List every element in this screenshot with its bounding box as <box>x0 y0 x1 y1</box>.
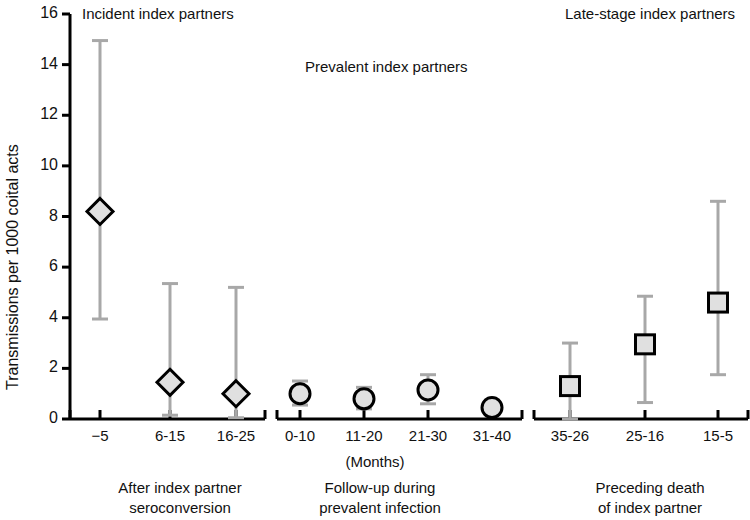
data-point-diamond <box>223 381 249 407</box>
group-caption-2: Follow-up during prevalent infection <box>295 478 465 518</box>
group-caption-3-line1: Preceding death <box>560 478 740 498</box>
x-category-label: 15-5 <box>673 427 750 444</box>
x-category-label: 31-40 <box>447 427 537 444</box>
group-caption-3: Preceding death of index partner <box>560 478 740 518</box>
chart-figure: Transmissions per 1000 coital acts Incid… <box>0 0 750 520</box>
data-point-circle <box>418 380 438 400</box>
group-caption-3-line2: of index partner <box>560 498 740 518</box>
group-caption-1: After index partner seroconversion <box>80 478 280 518</box>
data-point-circle <box>482 398 502 418</box>
group-caption-2-line1: Follow-up during <box>295 478 465 498</box>
y-tick-label: 2 <box>24 358 58 376</box>
y-tick-label: 8 <box>24 207 58 225</box>
data-point-square <box>709 293 728 312</box>
group-caption-1-line2: seroconversion <box>80 498 280 518</box>
data-point-square <box>636 335 655 354</box>
data-point-square <box>561 377 580 396</box>
data-point-diamond <box>87 198 113 224</box>
group-caption-2-line2: prevalent infection <box>295 498 465 518</box>
y-tick-label: 10 <box>24 156 58 174</box>
y-tick-label: 16 <box>24 4 58 22</box>
months-axis-label: (Months) <box>325 453 425 470</box>
group-caption-1-line1: After index partner <box>80 478 280 498</box>
y-tick-label: 4 <box>24 308 58 326</box>
data-point-circle <box>290 384 310 404</box>
y-tick-label: 14 <box>24 55 58 73</box>
data-point-circle <box>354 389 374 409</box>
y-tick-label: 12 <box>24 105 58 123</box>
y-tick-label: 6 <box>24 257 58 275</box>
data-point-diamond <box>157 369 183 395</box>
y-tick-label: 0 <box>24 409 58 427</box>
